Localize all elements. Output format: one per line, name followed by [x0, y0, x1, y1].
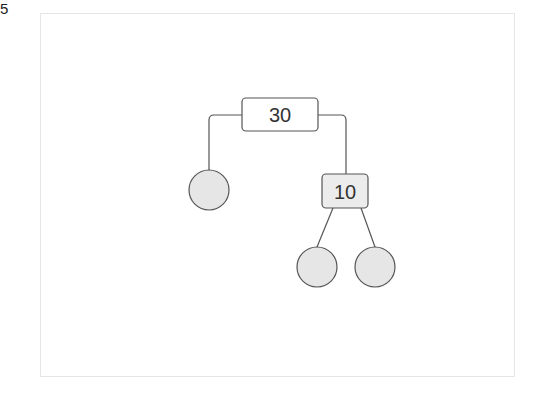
node-bottom-right-leaf — [355, 247, 395, 287]
node-root-label: 30 — [269, 104, 291, 126]
node-bottom-left-leaf — [297, 247, 337, 287]
node-left-leaf — [189, 170, 229, 210]
edge-10-left — [317, 208, 333, 247]
edge-10-right — [361, 208, 375, 247]
node-10: 10 — [322, 174, 368, 208]
edge-root-left — [209, 115, 242, 170]
edge-root-right — [318, 115, 346, 174]
tree-diagram: 30 10 — [0, 0, 551, 404]
node-10-label: 10 — [334, 181, 356, 203]
node-root: 30 — [242, 98, 318, 131]
